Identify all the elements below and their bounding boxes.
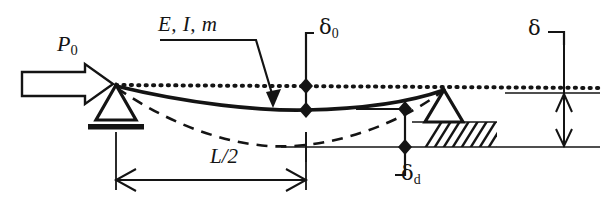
load-symbol: P — [57, 31, 70, 56]
dotted-reference-line — [116, 85, 600, 88]
node-deltad-upper — [398, 101, 412, 117]
delta0-leader-bracket — [306, 33, 314, 42]
node-deltad-lower — [398, 139, 412, 155]
load-block-arrow-icon — [22, 64, 113, 104]
delta-symbol: δ — [319, 15, 332, 39]
figure-canvas: E, I, m P0 δ0 δ δd L/2 — [0, 0, 610, 214]
applied-load-label: P0 — [57, 33, 78, 58]
load-subscript: 0 — [70, 42, 77, 58]
diagram-svg — [0, 0, 610, 214]
left-support-base — [88, 124, 144, 130]
node-midspan-beam — [299, 102, 313, 118]
beam-properties-label: E, I, m — [158, 14, 218, 35]
node-midspan-reference — [299, 78, 313, 94]
dynamic-deflection-label: δd — [401, 163, 421, 187]
delta-symbol: δ — [528, 16, 541, 40]
end-displacement-label: δ — [528, 18, 541, 39]
deltad-subscript: d — [414, 172, 421, 187]
delta-symbol: δ — [401, 161, 414, 185]
beam-properties-leader-arrowhead — [266, 89, 281, 108]
beam-properties-leader — [160, 40, 273, 97]
midspan-deflection-label: δ0 — [319, 17, 339, 41]
delta0-subscript: 0 — [332, 26, 339, 41]
delta-leader-bracket — [548, 32, 564, 45]
half-span-label: L/2 — [210, 146, 238, 167]
